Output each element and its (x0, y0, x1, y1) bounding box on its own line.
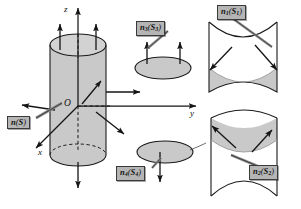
axis-label-y: y (190, 108, 194, 118)
label-n-S2: n2(S2) (249, 165, 278, 180)
axis-label-x: x (38, 147, 42, 157)
label-n-S3: n3(S3) (136, 21, 165, 36)
lateral-back-shape (211, 110, 277, 196)
leader-n-S1 (232, 18, 272, 47)
label-n-S1: n1(S1) (217, 5, 246, 20)
axis-label-z: z (64, 4, 68, 14)
lateral-front-shape (209, 22, 277, 92)
bottom-disk-shape (137, 141, 193, 182)
connector-mark (190, 143, 206, 150)
top-disk-shape (135, 42, 191, 79)
figure-canvas: z y x O n(S) n3(S3) n1(S1) n4(S4) n2(S2) (0, 0, 301, 209)
label-n-S4: n4(S4) (116, 166, 145, 181)
axis-label-origin: O (64, 98, 71, 108)
label-n-S: n(S) (7, 116, 30, 129)
